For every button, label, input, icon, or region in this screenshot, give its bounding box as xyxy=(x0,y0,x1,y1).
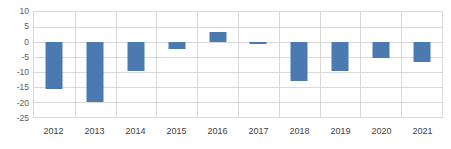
y-axis-tick-neg15: -15 xyxy=(17,83,29,92)
x-axis-tick-2015: 2015 xyxy=(156,121,197,141)
x-axis-tick-2013: 2013 xyxy=(74,121,115,141)
x-axis-tick-2012: 2012 xyxy=(33,121,74,141)
x-axis-tick-2021: 2021 xyxy=(402,121,443,141)
x-axis-tick-2018: 2018 xyxy=(279,121,320,141)
bar-2013[interactable] xyxy=(87,42,104,102)
bar-series xyxy=(34,12,442,117)
bar-slot-2021 xyxy=(401,12,442,117)
x-axis-tick-2014: 2014 xyxy=(115,121,156,141)
x-axis-tick-2016: 2016 xyxy=(197,121,238,141)
bar-slot-2013 xyxy=(75,12,116,117)
bar-chart: 10 5 0 -5 -10 -15 -20 -25 2012 2013 2014… xyxy=(0,0,451,149)
x-axis-tick-2019: 2019 xyxy=(320,121,361,141)
bar-2019[interactable] xyxy=(331,42,348,71)
bar-2020[interactable] xyxy=(372,42,389,58)
bar-slot-2018 xyxy=(279,12,320,117)
y-axis-tick-5: 5 xyxy=(24,22,29,31)
bar-2018[interactable] xyxy=(291,42,308,81)
y-axis-tick-neg10: -10 xyxy=(17,68,29,77)
bar-slot-2020 xyxy=(360,12,401,117)
bar-slot-2014 xyxy=(116,12,157,117)
bar-2014[interactable] xyxy=(127,42,144,71)
x-axis-tick-labels: 2012 2013 2014 2015 2016 2017 2018 2019 … xyxy=(33,121,443,141)
plot-area xyxy=(33,11,443,118)
x-axis-tick-2017: 2017 xyxy=(238,121,279,141)
x-axis-tick-2020: 2020 xyxy=(361,121,402,141)
bar-2017[interactable] xyxy=(250,42,267,44)
y-axis-tick-10: 10 xyxy=(20,7,29,16)
y-axis-tick-labels: 10 5 0 -5 -10 -15 -20 -25 xyxy=(0,11,29,118)
y-axis-tick-0: 0 xyxy=(24,37,29,46)
bar-slot-2019 xyxy=(320,12,361,117)
bar-2021[interactable] xyxy=(413,42,430,62)
bar-2016[interactable] xyxy=(209,32,226,42)
bar-slot-2012 xyxy=(34,12,75,117)
bar-slot-2016 xyxy=(197,12,238,117)
bar-slot-2015 xyxy=(156,12,197,117)
y-axis-tick-neg20: -20 xyxy=(17,98,29,107)
bar-2012[interactable] xyxy=(46,42,63,89)
y-axis-tick-neg5: -5 xyxy=(21,53,29,62)
bar-2015[interactable] xyxy=(168,42,185,49)
y-axis-tick-neg25: -25 xyxy=(17,114,29,123)
bar-slot-2017 xyxy=(238,12,279,117)
